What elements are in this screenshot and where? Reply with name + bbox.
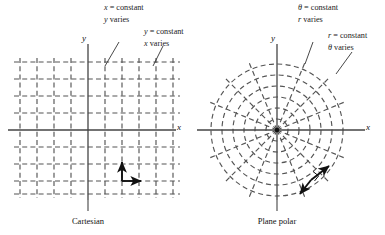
polar-caption: Plane polar [227, 216, 327, 226]
polar-leader-theta-constant [305, 42, 313, 64]
cartesian-annotation-x-constant: x = constant y varies [104, 2, 144, 26]
polar-annotation-r-constant: r = constant θ varies [328, 30, 367, 54]
cartesian-y-axis-label: y [82, 33, 86, 43]
cartesian-annotation-x-constant-rest: = constant [108, 3, 144, 12]
cartesian-basis-vectors [122, 162, 141, 181]
polar-annotation-r-constant-rest: = constant [331, 31, 367, 40]
polar-leader-r-constant [336, 52, 352, 74]
polar-origin-dot [275, 128, 279, 132]
polar-annotation-theta-constant: θ = constant r varies [298, 2, 338, 26]
polar-y-axis-label: y [271, 33, 275, 43]
cartesian-panel [8, 42, 180, 211]
cartesian-caption: Cartesian [38, 216, 138, 226]
polar-basis-vector-er [311, 166, 329, 180]
cartesian-grid-horizontal-lines [14, 62, 180, 194]
polar-annotation-r-varies-rest: varies [301, 15, 323, 24]
polar-annotation-theta-constant-rest: = constant [302, 3, 338, 12]
cartesian-annotation-y-varies-rest: varies [108, 15, 130, 24]
cartesian-annotation-y-constant-rest: = constant [148, 27, 184, 36]
cartesian-annotation-x-varies-rest: varies [148, 39, 170, 48]
polar-annotation-theta-varies-rest: varies [332, 43, 354, 52]
polar-panel [197, 42, 365, 211]
cartesian-x-axis-label: x [177, 122, 181, 132]
polar-x-axis-label: x [366, 122, 370, 132]
cartesian-annotation-y-constant: y = constant x varies [144, 26, 184, 50]
coordinate-systems-figure: x = constant y varies y = constant x var… [0, 0, 385, 235]
